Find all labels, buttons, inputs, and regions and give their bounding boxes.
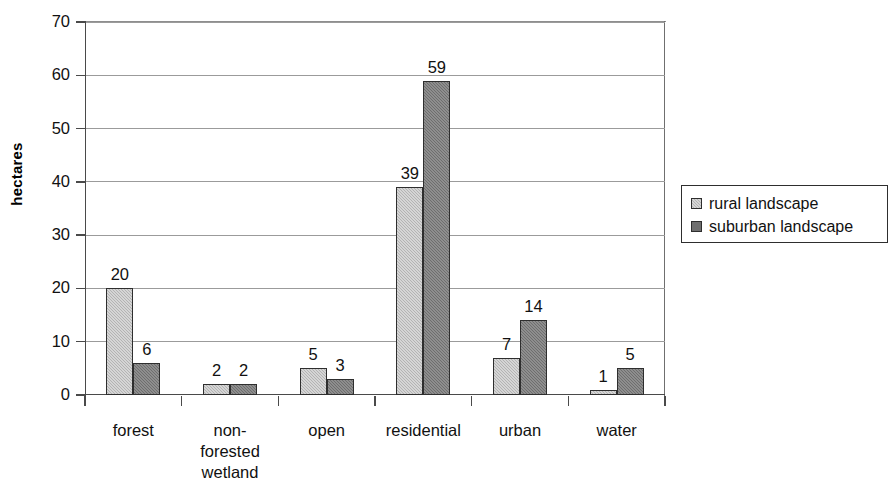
y-tick-50 xyxy=(76,128,86,129)
x-tick-1 xyxy=(181,396,182,406)
y-tick-10 xyxy=(76,341,86,342)
data-label-suburban-5: 5 xyxy=(608,346,652,363)
x-category-label-5-line-0: water xyxy=(552,420,682,441)
x-tick-0 xyxy=(84,396,85,406)
x-tick-4 xyxy=(471,396,472,406)
bar-suburban-2 xyxy=(327,379,354,395)
legend-swatch-suburban-icon xyxy=(691,221,702,232)
x-tick-2 xyxy=(278,396,279,406)
y-tick-70 xyxy=(76,21,86,22)
y-tick-label-70: 70 xyxy=(12,13,70,30)
data-label-suburban-1: 2 xyxy=(222,362,266,379)
data-label-rural-4: 7 xyxy=(485,336,529,353)
bar-rural-5 xyxy=(590,390,617,395)
y-tick-label-30: 30 xyxy=(12,226,70,243)
legend: rural landscape suburban landscape xyxy=(681,185,888,243)
bar-suburban-4 xyxy=(520,320,547,395)
data-label-rural-3: 39 xyxy=(388,165,432,182)
x-tick-3 xyxy=(374,396,375,406)
gridline-50 xyxy=(85,128,665,129)
y-tick-label-10: 10 xyxy=(12,333,70,350)
bar-rural-4 xyxy=(493,358,520,395)
data-label-rural-5: 1 xyxy=(581,368,625,385)
bar-suburban-0 xyxy=(133,363,160,395)
x-tick-5 xyxy=(568,396,569,406)
legend-item-rural: rural landscape xyxy=(691,192,887,215)
gridline-40 xyxy=(85,181,665,182)
legend-item-suburban: suburban landscape xyxy=(691,215,887,238)
x-category-label-1-line-2: wetland xyxy=(165,462,295,483)
y-tick-40 xyxy=(76,181,86,182)
data-label-suburban-4: 14 xyxy=(512,298,556,315)
legend-label-suburban: suburban landscape xyxy=(709,219,853,235)
bar-suburban-3 xyxy=(423,81,450,395)
x-category-label-5: water xyxy=(552,420,682,441)
data-label-suburban-3: 59 xyxy=(415,59,459,76)
y-tick-label-50: 50 xyxy=(12,120,70,137)
y-tick-label-0: 0 xyxy=(12,386,70,403)
bar-chart: hectares 010203040506070 206225339597141… xyxy=(0,0,890,494)
gridline-20 xyxy=(85,288,665,289)
data-label-suburban-0: 6 xyxy=(125,341,169,358)
y-tick-label-40: 40 xyxy=(12,173,70,190)
data-label-suburban-2: 3 xyxy=(318,357,362,374)
bar-suburban-1 xyxy=(230,384,257,395)
data-label-rural-0: 20 xyxy=(98,266,142,283)
gridline-30 xyxy=(85,235,665,236)
legend-swatch-rural-icon xyxy=(691,198,702,209)
y-tick-label-60: 60 xyxy=(12,66,70,83)
plot-area xyxy=(85,22,665,395)
x-category-label-1-line-1: forested xyxy=(165,441,295,462)
legend-label-rural: rural landscape xyxy=(709,196,818,212)
x-tick-6 xyxy=(664,396,665,406)
bar-rural-1 xyxy=(203,384,230,395)
y-tick-60 xyxy=(76,75,86,76)
y-tick-20 xyxy=(76,288,86,289)
gridline-60 xyxy=(85,75,665,76)
gridline-10 xyxy=(85,341,665,342)
y-tick-30 xyxy=(76,234,86,235)
y-tick-label-20: 20 xyxy=(12,279,70,296)
bar-rural-3 xyxy=(396,187,423,395)
gridline-70 xyxy=(85,22,665,23)
